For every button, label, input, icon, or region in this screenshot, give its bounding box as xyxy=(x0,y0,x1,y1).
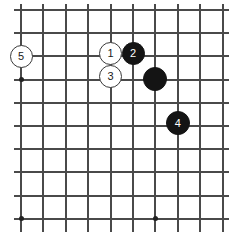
stone-4: 4 xyxy=(166,111,190,135)
stone-move-number: 2 xyxy=(130,48,136,59)
stone-2: 2 xyxy=(122,42,145,65)
stone-5: 5 xyxy=(10,45,33,68)
go-board-diagram: 51234 xyxy=(0,0,232,239)
stone-move-number: 1 xyxy=(108,48,114,59)
stone-black-unmarked xyxy=(143,67,167,91)
stone-3: 3 xyxy=(99,65,122,88)
board-stones: 51234 xyxy=(0,0,232,239)
stone-move-number: 5 xyxy=(18,51,24,62)
stone-move-number: 4 xyxy=(175,118,181,129)
stone-1: 1 xyxy=(99,42,122,65)
stone-move-number: 3 xyxy=(108,71,114,82)
